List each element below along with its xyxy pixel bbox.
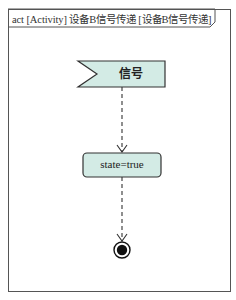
frame-title: act [Activity] 设备B信号传递 [设备B信号传递] bbox=[12, 11, 211, 26]
activity-final-inner-icon[interactable] bbox=[117, 245, 127, 255]
diagram-canvas bbox=[0, 0, 236, 300]
action-node-label: state=true bbox=[83, 158, 161, 170]
signal-node-label: 信号 bbox=[97, 64, 165, 81]
